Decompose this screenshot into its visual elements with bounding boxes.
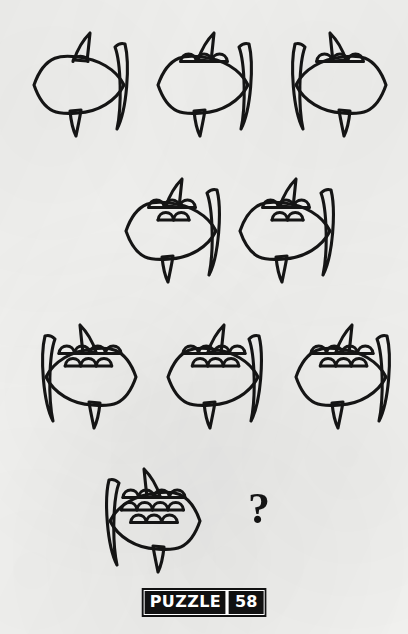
fish-9 — [90, 466, 208, 574]
fish-body — [168, 348, 258, 406]
fish-tail-fin — [107, 480, 119, 565]
fish-tail-fin — [239, 44, 251, 129]
fish-2 — [150, 30, 268, 138]
fish-3 — [276, 30, 394, 138]
fish-body — [158, 56, 248, 114]
fish-tail-fin — [293, 44, 305, 129]
fish-body — [240, 202, 330, 260]
fish-tail-fin — [321, 190, 333, 275]
fish-body — [46, 348, 136, 406]
fish-tail-fin — [115, 44, 127, 129]
missing-fish-question-mark[interactable]: ? — [248, 487, 270, 531]
fish-6 — [26, 322, 144, 430]
fish-scale-field — [121, 490, 185, 523]
puzzle-badge-number: 58 — [229, 591, 263, 614]
fish-body — [126, 202, 216, 260]
fish-5 — [232, 176, 350, 284]
puzzle-sheet: ? — [0, 0, 408, 634]
fish-body — [34, 56, 124, 114]
fish-body — [296, 56, 386, 114]
puzzle-number-badge: PUZZLE 58 — [142, 588, 267, 617]
fish-body — [110, 492, 200, 550]
fish-tail-fin — [207, 190, 219, 275]
fish-tail-fin — [377, 336, 389, 421]
fish-7 — [160, 322, 278, 430]
fish-4 — [118, 176, 236, 284]
fish-8 — [288, 322, 406, 430]
fish-tail-fin — [249, 336, 261, 421]
puzzle-badge-label: PUZZLE — [145, 591, 226, 614]
fish-body — [296, 348, 386, 406]
fish-tail-fin — [43, 336, 55, 421]
fish-1 — [26, 30, 144, 138]
